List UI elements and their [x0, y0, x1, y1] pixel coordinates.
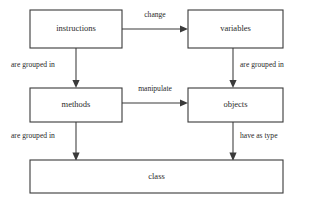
- edge-label-objects-class: have as type: [240, 131, 278, 140]
- arrowhead-icon: [180, 99, 188, 106]
- node-label-objects: objects: [223, 99, 247, 109]
- node-label-methods: methods: [62, 99, 91, 109]
- edge-instructions-methods: [72, 48, 79, 88]
- edge-objects-class: [229, 122, 236, 161]
- edge-instructions-variables: [122, 25, 188, 32]
- edge-label-manipulate: manipulate: [138, 84, 172, 93]
- node-class[interactable]: class: [30, 160, 283, 193]
- arrowhead-icon: [180, 25, 188, 32]
- node-objects[interactable]: objects: [188, 88, 283, 122]
- node-methods[interactable]: methods: [30, 88, 122, 122]
- edge-variables-objects: [229, 48, 236, 88]
- edge-label-methods-class: are grouped in: [11, 131, 55, 140]
- edge-methods-objects: [122, 99, 188, 106]
- edge-methods-class: [72, 122, 79, 161]
- diagram-canvas: instructions variables methods objects c…: [0, 0, 312, 207]
- arrowhead-icon: [229, 80, 236, 88]
- diagram-svg: instructions variables methods objects c…: [0, 0, 312, 207]
- node-label-variables: variables: [220, 23, 251, 33]
- edge-label-change: change: [144, 10, 166, 19]
- node-instructions[interactable]: instructions: [30, 10, 122, 48]
- node-label-class: class: [148, 171, 165, 181]
- arrowhead-icon: [72, 80, 79, 88]
- node-variables[interactable]: variables: [188, 10, 283, 48]
- node-label-instructions: instructions: [56, 23, 96, 33]
- edge-label-instructions-methods: are grouped in: [11, 60, 55, 69]
- edge-label-variables-objects: are grouped in: [240, 60, 284, 69]
